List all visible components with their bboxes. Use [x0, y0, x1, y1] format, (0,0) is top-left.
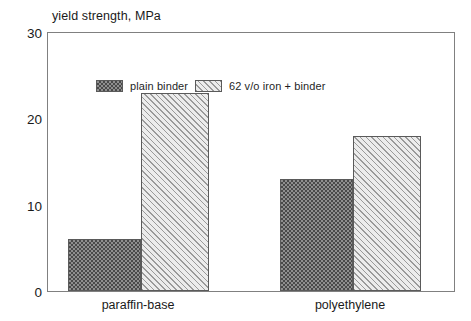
legend-label-plain-binder: plain binder — [130, 80, 188, 92]
y-tick-label-0: 0 — [34, 285, 42, 300]
legend-swatch-iron-binder — [195, 80, 222, 92]
legend-item-iron-binder: 62 v/o iron + binder — [195, 77, 325, 95]
bar-polyethylene-plain-binder — [280, 179, 353, 291]
chart-title: yield strength, MPa — [52, 9, 161, 23]
plot-area: plain binder 62 v/o iron + binder — [47, 32, 455, 292]
bar-paraffin-base-plain-binder — [68, 239, 141, 291]
bar-polyethylene-iron-binder — [353, 136, 421, 291]
y-tick-label-10: 10 — [27, 199, 42, 214]
x-tick-label-polyethylene: polyethylene — [315, 298, 385, 312]
y-tick-label-20: 20 — [27, 112, 42, 127]
bar-paraffin-base-iron-binder — [141, 93, 209, 291]
x-tick-label-paraffin-base: paraffin-base — [102, 298, 175, 312]
chart-page: yield strength, MPa 30 20 10 0 plain bin… — [0, 0, 471, 321]
y-tick-label-30: 30 — [27, 26, 42, 41]
legend-label-iron-binder: 62 v/o iron + binder — [229, 80, 325, 92]
y-axis: 30 20 10 0 — [0, 0, 42, 321]
legend-swatch-plain-binder — [96, 80, 123, 92]
